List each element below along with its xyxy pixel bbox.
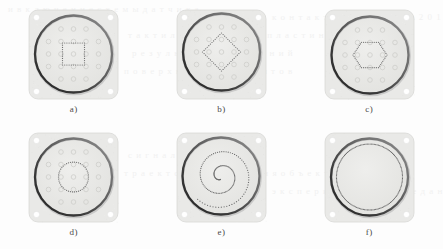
mounting-hole-3 xyxy=(181,211,187,217)
mounting-hole-2 xyxy=(108,137,114,143)
sensor-plate-a xyxy=(24,7,123,102)
sensor-plate-e xyxy=(172,130,271,225)
panel-caption-e: e) xyxy=(217,227,225,237)
mounting-hole-3 xyxy=(34,88,40,94)
panel-cell-e: e) xyxy=(148,125,296,249)
panel-caption-b: b) xyxy=(217,104,226,114)
mounting-hole-3 xyxy=(34,211,40,217)
mounting-hole-3 xyxy=(329,88,335,94)
mounting-hole-1 xyxy=(329,137,335,143)
panel-cell-a: a) xyxy=(0,0,148,125)
mounting-hole-2 xyxy=(108,14,114,20)
panel-grid: a) b) c) d) e) xyxy=(0,0,443,249)
mounting-hole-4 xyxy=(108,211,114,217)
mounting-hole-4 xyxy=(255,211,261,217)
mounting-hole-4 xyxy=(403,88,409,94)
panel-caption-a: a) xyxy=(70,104,78,114)
sensor-plate-f-graphic xyxy=(320,130,419,225)
mounting-hole-2 xyxy=(255,137,261,143)
mounting-hole-3 xyxy=(329,211,335,217)
panel-caption-f: f) xyxy=(366,227,373,237)
panel-caption-d: d) xyxy=(70,227,79,237)
mounting-hole-1 xyxy=(34,137,40,143)
mounting-hole-1 xyxy=(34,14,40,20)
mounting-hole-2 xyxy=(403,137,409,143)
mounting-hole-2 xyxy=(255,14,261,20)
sensor-plate-c-graphic xyxy=(320,7,419,102)
sensor-plate-b-graphic xyxy=(172,7,271,102)
panel-cell-f: f) xyxy=(295,125,443,249)
panel-cell-b: b) xyxy=(148,0,296,125)
mounting-hole-1 xyxy=(181,137,187,143)
mounting-hole-4 xyxy=(403,211,409,217)
sensor-plate-c xyxy=(320,7,419,102)
sensor-plate-f xyxy=(320,130,419,225)
panel-caption-c: c) xyxy=(365,104,373,114)
sensor-plate-d-graphic xyxy=(24,130,123,225)
sensor-plate-b xyxy=(172,7,271,102)
mounting-hole-1 xyxy=(329,14,335,20)
figure-container: и в к л ю ч е н и е с х е м ы д а т ч и … xyxy=(0,0,443,249)
mounting-hole-1 xyxy=(181,14,187,20)
panel-cell-c: c) xyxy=(295,0,443,125)
mounting-hole-4 xyxy=(255,88,261,94)
mounting-hole-4 xyxy=(108,88,114,94)
panel-cell-d: d) xyxy=(0,125,148,249)
sensor-plate-d xyxy=(24,130,123,225)
sensor-plate-e-graphic xyxy=(172,130,271,225)
sensor-plate-a-graphic xyxy=(24,7,123,102)
mounting-hole-3 xyxy=(181,88,187,94)
mounting-hole-2 xyxy=(403,14,409,20)
